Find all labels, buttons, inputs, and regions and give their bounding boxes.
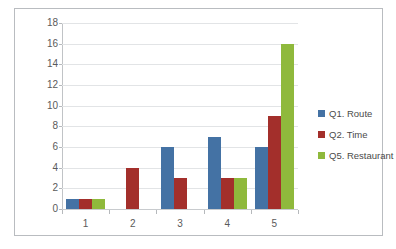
bar[interactable]	[161, 147, 174, 209]
x-tick-label: 1	[66, 218, 106, 230]
y-tick-mark	[59, 168, 62, 169]
y-tick-label: 12	[28, 80, 58, 90]
y-tick-mark	[59, 85, 62, 86]
x-tick-mark	[251, 210, 252, 214]
legend-label: Q2. Time	[329, 129, 368, 140]
bar[interactable]	[126, 168, 139, 209]
x-axis-tick-labels: 12345	[62, 215, 298, 231]
x-tick-label: 5	[254, 218, 294, 230]
y-tick-label: 0	[28, 204, 58, 214]
bar-group	[66, 23, 105, 209]
bar[interactable]	[221, 178, 234, 209]
x-tick-label: 2	[113, 218, 153, 230]
y-tick-label: 14	[28, 59, 58, 69]
x-tick-mark	[204, 210, 205, 214]
bar[interactable]	[79, 199, 92, 209]
y-tick-label: 6	[28, 142, 58, 152]
plot-area	[62, 23, 298, 209]
bar[interactable]	[174, 178, 187, 209]
bar[interactable]	[234, 178, 247, 209]
bar[interactable]	[268, 116, 281, 209]
legend-swatch-icon	[318, 152, 325, 159]
bar-group	[113, 23, 152, 209]
legend-label: Q1. Route	[329, 108, 372, 119]
y-tick-label: 2	[28, 183, 58, 193]
chart-frame: 024681012141618 12345 Q1. RouteQ2. TimeQ…	[14, 8, 383, 236]
x-tick-mark	[62, 210, 63, 214]
y-axis-tick-labels: 024681012141618	[25, 23, 58, 209]
y-tick-label: 16	[28, 39, 58, 49]
bar[interactable]	[255, 147, 268, 209]
y-tick-mark	[59, 188, 62, 189]
bar-group	[255, 23, 294, 209]
y-tick-label: 4	[28, 163, 58, 173]
bar[interactable]	[66, 199, 79, 209]
bar[interactable]	[92, 199, 105, 209]
x-tick-mark	[156, 210, 157, 214]
y-tick-mark	[59, 44, 62, 45]
y-tick-mark	[59, 147, 62, 148]
x-tick-mark	[109, 210, 110, 214]
chart-legend: Q1. RouteQ2. TimeQ5. Restaurant	[318, 103, 396, 166]
bar[interactable]	[208, 137, 221, 209]
x-tick-label: 3	[160, 218, 200, 230]
y-tick-label: 10	[28, 101, 58, 111]
x-tick-label: 4	[207, 218, 247, 230]
y-tick-mark	[59, 64, 62, 65]
y-tick-mark	[59, 106, 62, 107]
legend-item[interactable]: Q5. Restaurant	[318, 145, 396, 166]
y-tick-mark	[59, 126, 62, 127]
x-tick-mark	[298, 210, 299, 214]
y-tick-mark	[59, 23, 62, 24]
gridline	[62, 209, 298, 210]
legend-item[interactable]: Q1. Route	[318, 103, 396, 124]
legend-swatch-icon	[318, 131, 325, 138]
legend-label: Q5. Restaurant	[329, 150, 393, 161]
bar-group	[208, 23, 247, 209]
legend-item[interactable]: Q2. Time	[318, 124, 396, 145]
bar[interactable]	[281, 44, 294, 209]
y-tick-label: 8	[28, 121, 58, 131]
bar-group	[161, 23, 200, 209]
legend-swatch-icon	[318, 110, 325, 117]
y-tick-label: 18	[28, 18, 58, 28]
